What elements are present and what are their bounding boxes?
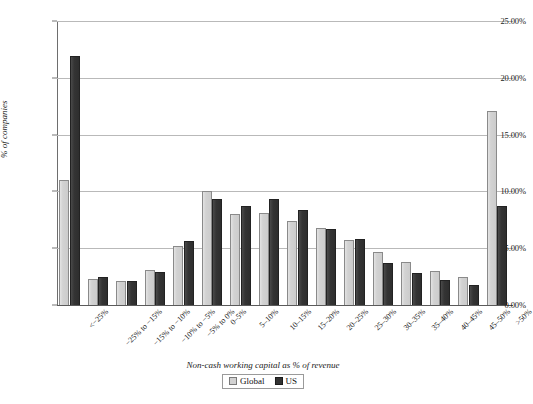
bar-group (57, 21, 86, 305)
bar-global (487, 111, 497, 305)
x-tick-label: 45–50% (487, 307, 512, 332)
bar-group (399, 21, 428, 305)
bar-us (469, 285, 479, 305)
bar-us (127, 281, 137, 305)
legend-swatch-icon (274, 377, 282, 385)
x-axis-line (57, 305, 513, 306)
bar-us (383, 263, 393, 305)
legend-item-global[interactable]: Global (229, 376, 265, 386)
x-axis-title: Non-cash working capital as % of revenue (0, 360, 526, 370)
bar-global (173, 246, 183, 305)
bar-global (59, 180, 69, 305)
legend-item-us[interactable]: US (274, 376, 297, 386)
bar-group (371, 21, 400, 305)
x-tick-label: 10–15% (288, 307, 313, 332)
bar-us (497, 206, 507, 305)
x-axis-ticks: <−25%−25% to −15%−15% to −10%−10% to −5%… (57, 307, 513, 365)
x-tick-label: <−25% (87, 307, 110, 330)
bar-group (143, 21, 172, 305)
bar-group (342, 21, 371, 305)
x-tick-label: 25–30% (373, 307, 398, 332)
bar-group (485, 21, 514, 305)
x-tick-label: 40–45% (459, 307, 484, 332)
bar-group (171, 21, 200, 305)
bar-global (401, 262, 411, 305)
x-tick-label: 35–40% (430, 307, 455, 332)
bar-us (326, 229, 336, 305)
bar-us (241, 206, 251, 305)
bars-layer (57, 21, 513, 305)
bar-global (116, 281, 126, 305)
bar-group (86, 21, 115, 305)
x-tick-label: 15–20% (316, 307, 341, 332)
bar-global (316, 228, 326, 305)
bar-global (145, 270, 155, 305)
bar-us (98, 277, 108, 305)
bar-global (287, 221, 297, 305)
bar-global (88, 279, 98, 305)
legend: GlobalUS (222, 374, 304, 389)
bar-global (373, 252, 383, 305)
bar-group (257, 21, 286, 305)
bar-global (344, 240, 354, 305)
bar-global (430, 271, 440, 305)
bar-us (355, 239, 365, 305)
bar-us (70, 56, 80, 305)
legend-swatch-icon (229, 377, 237, 385)
bar-global (259, 213, 269, 305)
bar-us (184, 241, 194, 305)
bar-us (412, 273, 422, 305)
x-tick-label: 5–10% (258, 307, 280, 329)
bar-us (269, 199, 279, 305)
bar-us (298, 210, 308, 305)
bar-group (456, 21, 485, 305)
bar-us (155, 272, 165, 305)
bar-group (200, 21, 229, 305)
y-axis-title: % of companies (0, 101, 9, 159)
bar-group (114, 21, 143, 305)
bar-group (314, 21, 343, 305)
x-tick-label: 20–25% (345, 307, 370, 332)
bar-group (428, 21, 457, 305)
bar-us (212, 199, 222, 305)
bar-global (202, 191, 212, 305)
legend-label: Global (240, 376, 265, 386)
bar-group (285, 21, 314, 305)
bar-global (230, 214, 240, 305)
x-tick-label: 30–35% (402, 307, 427, 332)
bar-global (458, 277, 468, 305)
legend-label: US (285, 376, 297, 386)
bar-us (440, 280, 450, 305)
bar-group (228, 21, 257, 305)
